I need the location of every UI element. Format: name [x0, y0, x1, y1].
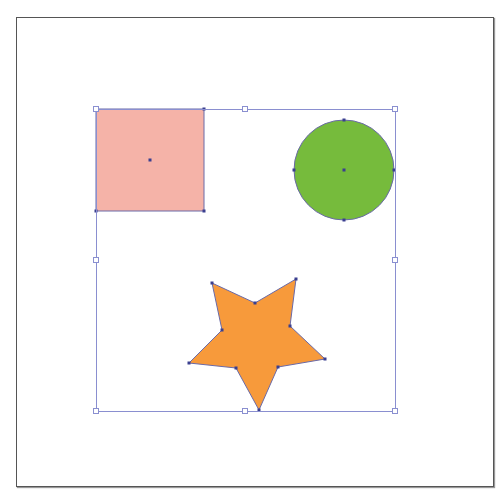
resize-handle[interactable] [243, 107, 248, 112]
rectangle-shape[interactable] [95, 108, 206, 213]
anchor-point[interactable] [343, 169, 346, 172]
anchor-point[interactable] [211, 282, 214, 285]
resize-handle[interactable] [393, 409, 398, 414]
resize-handle[interactable] [393, 258, 398, 263]
resize-handle[interactable] [94, 107, 99, 112]
circle-shape[interactable] [293, 119, 396, 222]
anchor-point[interactable] [277, 366, 280, 369]
anchor-point[interactable] [295, 278, 298, 281]
anchor-point[interactable] [324, 358, 327, 361]
anchor-point[interactable] [235, 367, 238, 370]
resize-handle[interactable] [393, 107, 398, 112]
drawing-canvas[interactable] [0, 0, 498, 502]
anchor-point[interactable] [343, 119, 346, 122]
anchor-point[interactable] [188, 362, 191, 365]
star-shape[interactable] [188, 278, 327, 412]
anchor-point[interactable] [293, 169, 296, 172]
anchor-point[interactable] [343, 219, 346, 222]
anchor-point[interactable] [203, 210, 206, 213]
anchor-point[interactable] [254, 302, 257, 305]
resize-handle[interactable] [243, 409, 248, 414]
anchor-point[interactable] [149, 159, 152, 162]
anchor-point[interactable] [289, 325, 292, 328]
resize-handle[interactable] [94, 258, 99, 263]
anchor-point[interactable] [221, 329, 224, 332]
resize-handle[interactable] [94, 409, 99, 414]
